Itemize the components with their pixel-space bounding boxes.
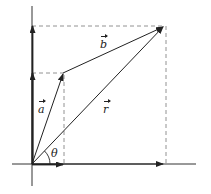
theta-arc [45, 151, 51, 164]
vector-b [63, 27, 163, 73]
vector-r [32, 27, 163, 164]
label-theta: θ [51, 148, 58, 159]
label-b: b [100, 39, 107, 50]
vector-diagram-svg [0, 0, 211, 194]
label-a: a [38, 104, 45, 115]
label-r: r [103, 104, 108, 115]
vector-diagram: a b r θ [0, 0, 211, 194]
vector-a [32, 74, 63, 164]
